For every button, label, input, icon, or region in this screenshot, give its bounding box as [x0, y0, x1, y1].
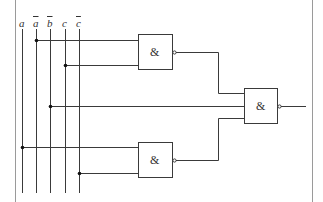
input-label-b-bar: b [47, 18, 53, 29]
input-label-c-bar: c [76, 18, 81, 29]
gate-2-symbol: & [150, 153, 159, 168]
inversion-bubble-2 [173, 159, 176, 162]
junction-dot [21, 146, 25, 150]
logic-circuit-diagram [0, 0, 323, 202]
input-label-a: a [19, 18, 25, 29]
junction-dot [35, 39, 39, 43]
gate-1-symbol: & [150, 45, 159, 60]
inversion-bubble-3 [278, 105, 281, 108]
junction-dot [49, 105, 53, 109]
junction-dot [78, 172, 82, 176]
wire-g1-to-g3 [176, 53, 244, 94]
inversion-bubble-1 [173, 51, 176, 54]
wire-g2-to-g3 [176, 119, 244, 161]
junction-dot [64, 64, 68, 68]
input-label-a-bar: a [33, 18, 39, 29]
gate-3-symbol: & [256, 99, 265, 114]
input-label-c: c [62, 18, 67, 29]
